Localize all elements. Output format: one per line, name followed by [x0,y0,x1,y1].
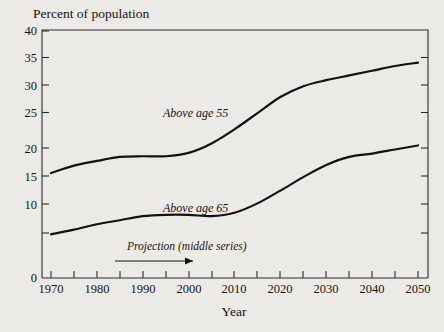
x-axis-tick-labels: 1970 1980 1990 2000 2010 2020 2030 2040 … [39,282,431,296]
y-tick-label: 20 [25,142,38,156]
x-tick-label: 2050 [406,282,431,296]
y-tick-label: 15 [25,170,38,184]
population-percent-line-chart: Percent of population [0,0,444,332]
y-tick-label-zero: 0 [31,271,37,285]
chart-figure: Percent of population [0,0,444,332]
x-tick-label: 2010 [222,282,247,296]
y-axis-title: Percent of population [33,6,149,21]
y-tick-label: 30 [25,79,38,93]
series-label-above-age-65: Above age 65 [162,201,228,215]
x-tick-label: 1980 [85,282,110,296]
x-tick-label: 2030 [314,282,339,296]
projection-annotation-label: Projection (middle series) [126,240,247,253]
y-tick-label: 10 [25,198,38,212]
series-label-above-age-55: Above age 55 [162,106,228,120]
x-tick-label: 2020 [268,282,293,296]
y-tick-label: 35 [25,51,38,65]
y-tick-label: 40 [25,24,38,38]
x-tick-label: 2040 [360,282,385,296]
x-axis-title: Year [222,304,247,319]
x-tick-label: 2000 [177,282,202,296]
x-tick-label: 1970 [39,282,64,296]
x-tick-label: 1990 [131,282,156,296]
y-tick-label: 25 [25,106,38,120]
